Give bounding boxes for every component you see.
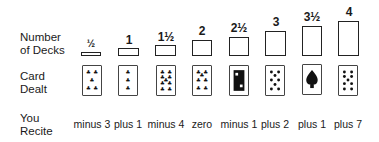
svg-text:♣: ♣ xyxy=(126,77,131,83)
row-label-card: Card Dealt xyxy=(20,70,47,95)
deck-count-label: 1 xyxy=(111,33,147,47)
clubs-pips-icon: ♣♣ ♣ ♣♣ ♣♣ xyxy=(193,66,211,95)
deck-stack-box xyxy=(81,52,101,56)
svg-text:♣: ♣ xyxy=(160,86,165,92)
spades-pips-icon xyxy=(339,66,357,95)
recite-value: plus 7 xyxy=(326,118,370,130)
clubs-pips-icon: ♣♣♣ xyxy=(119,66,137,95)
deck-count-label: 2½ xyxy=(221,21,257,35)
svg-text:♣: ♣ xyxy=(203,77,208,83)
label-line: Number xyxy=(20,31,65,44)
svg-text:♣: ♣ xyxy=(196,85,201,91)
label-line: of Decks xyxy=(20,44,65,57)
deck-stack-box xyxy=(302,26,322,56)
svg-text:♣: ♣ xyxy=(126,69,131,75)
clubs-pips-icon: ♣♣ ♣ ♣♣ xyxy=(83,66,101,95)
row-label-decks: Number of Decks xyxy=(20,31,65,56)
label-line: Recite xyxy=(20,125,53,138)
deck-count-label: 2 xyxy=(184,24,220,38)
spades-pips-icon xyxy=(266,66,284,95)
card-eight-of-spades xyxy=(265,65,285,96)
deck-count-label: 1½ xyxy=(148,30,184,44)
deck-stack-box xyxy=(192,40,212,56)
deck-stack-box xyxy=(265,31,286,56)
svg-text:♣: ♣ xyxy=(93,85,98,91)
deck-count-label: 4 xyxy=(331,5,367,19)
card-jack-of-clubs xyxy=(229,65,249,96)
face-card-icon xyxy=(230,66,248,95)
svg-text:♣: ♣ xyxy=(167,86,172,92)
card-five-of-clubs: ♣♣ ♣ ♣♣ xyxy=(82,65,102,96)
deck-stack-box xyxy=(155,45,176,56)
card-seven-of-clubs: ♣♣ ♣ ♣♣ ♣♣ xyxy=(192,65,212,96)
svg-text:♣: ♣ xyxy=(90,77,95,83)
svg-text:♣: ♣ xyxy=(93,69,98,75)
deck-count-label: 3½ xyxy=(294,10,330,24)
card-ten-of-spades xyxy=(338,65,358,96)
card-ace-of-spades xyxy=(302,64,322,95)
deck-count-label: ½ xyxy=(73,38,109,49)
svg-text:♣: ♣ xyxy=(126,85,131,91)
card-three-of-clubs: ♣♣♣ xyxy=(118,65,138,96)
svg-text:♣: ♣ xyxy=(196,77,201,83)
svg-text:♣: ♣ xyxy=(203,85,208,91)
deck-stack-box xyxy=(229,37,249,56)
label-line: Dealt xyxy=(20,83,47,96)
card-nine-of-clubs: ♣♣ ♣♣ ♣ ♣♣ ♣♣ xyxy=(156,65,176,96)
clubs-pips-icon: ♣♣ ♣♣ ♣ ♣♣ ♣♣ xyxy=(157,66,175,95)
label-line: You xyxy=(20,112,53,125)
spade-large-icon xyxy=(303,65,321,94)
svg-text:♣: ♣ xyxy=(86,85,91,91)
deck-count-label: 3 xyxy=(258,15,294,29)
label-line: Card xyxy=(20,70,47,83)
svg-text:♣: ♣ xyxy=(86,69,91,75)
deck-stack-box xyxy=(118,48,139,56)
deck-stack-box xyxy=(338,21,359,56)
row-label-recite: You Recite xyxy=(20,112,53,137)
